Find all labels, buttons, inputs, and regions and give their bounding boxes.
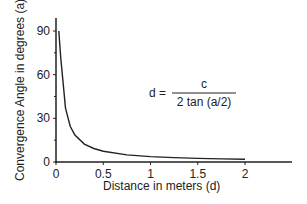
- y-tick-label: 60: [37, 68, 51, 82]
- x-axis-label: Distance in meters (d): [103, 179, 220, 193]
- chart: 0306090 00.511.52 Distance in meters (d)…: [0, 0, 307, 204]
- formula-annotation: d = c 2 tan (a/2): [149, 77, 236, 109]
- y-tick-label: 30: [37, 111, 51, 125]
- formula-lhs: d =: [149, 86, 166, 100]
- formula-denominator: 2 tan (a/2): [177, 95, 232, 109]
- formula-numerator: c: [201, 77, 207, 91]
- y-tick-label: 0: [43, 155, 50, 169]
- axes: [55, 18, 292, 163]
- y-axis-label: Convergence Angle in degrees (a): [13, 0, 27, 181]
- y-ticks: 0306090: [37, 24, 56, 169]
- x-tick-label: 2: [242, 167, 249, 181]
- x-tick-label: 0: [53, 167, 60, 181]
- y-tick-label: 90: [37, 24, 51, 38]
